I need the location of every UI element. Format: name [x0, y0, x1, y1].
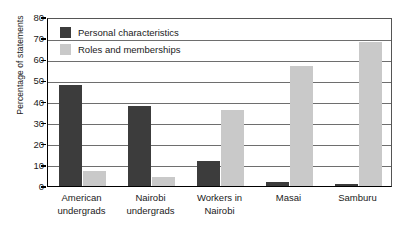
bar-group — [266, 19, 313, 186]
legend-label-personal-characteristics: Personal characteristics — [78, 28, 179, 38]
x-axis-label-line: undergrads — [47, 205, 116, 218]
y-axis-ticks: 80706050403020100 — [0, 18, 44, 187]
bar — [83, 171, 106, 186]
bar — [59, 85, 82, 186]
plot-area: Personal characteristics Roles and membe… — [47, 18, 392, 187]
bar-chart: Percentage of statements 807060504030201… — [0, 0, 409, 246]
bar — [152, 177, 175, 187]
y-tick-mark — [41, 38, 46, 39]
x-axis-label: Workers inNairobi — [185, 192, 254, 217]
x-axis-label: Americanundergrads — [47, 192, 116, 217]
bar-group — [335, 19, 382, 186]
y-tick-mark — [41, 81, 46, 82]
x-axis-label: Samburu — [323, 192, 392, 205]
legend-swatch-personal-characteristics — [60, 27, 71, 38]
legend-label-roles-and-memberships: Roles and memberships — [78, 45, 180, 55]
x-axis-label: Nairobiundergrads — [116, 192, 185, 217]
bar — [197, 161, 220, 186]
bar — [266, 182, 289, 186]
chart-legend: Personal characteristics Roles and membe… — [60, 25, 180, 59]
bar — [335, 184, 358, 186]
legend-swatch-roles-and-memberships — [60, 44, 71, 55]
bar — [359, 42, 382, 186]
y-tick-mark — [41, 60, 46, 61]
legend-item: Roles and memberships — [60, 42, 180, 57]
x-axis-label-line: undergrads — [116, 205, 185, 218]
legend-item: Personal characteristics — [60, 25, 180, 40]
bar — [128, 106, 151, 186]
x-axis-label-line: Nairobi — [185, 205, 254, 218]
y-tick-mark — [41, 165, 46, 166]
bar — [221, 110, 244, 186]
x-axis-label-line: Workers in — [185, 192, 254, 205]
x-axis-label-line: Masai — [254, 192, 323, 205]
y-tick-mark — [41, 102, 46, 103]
bar-group — [197, 19, 244, 186]
x-axis-label-line: Nairobi — [116, 192, 185, 205]
x-axis-label-line: Samburu — [323, 192, 392, 205]
y-tick-mark — [41, 186, 46, 187]
y-tick-mark — [41, 123, 46, 124]
x-axis-label: Masai — [254, 192, 323, 205]
y-tick-mark — [41, 17, 46, 18]
bar — [290, 66, 313, 186]
x-axis-labels: AmericanundergradsNairobiundergradsWorke… — [47, 192, 392, 240]
x-axis-label-line: American — [47, 192, 116, 205]
y-tick-mark — [41, 144, 46, 145]
